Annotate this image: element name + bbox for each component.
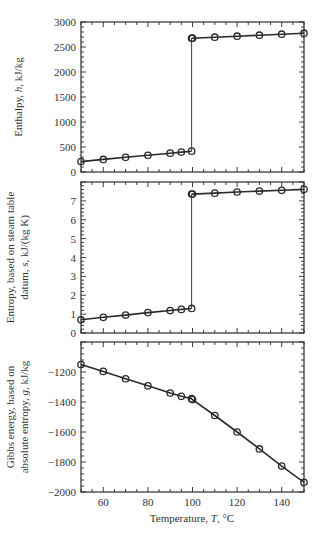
series-line-gibbs bbox=[81, 365, 304, 483]
y-tick-label: −1400 bbox=[48, 396, 77, 408]
enthalpy-panel: 050010001500200025003000Enthalpy, h, kJ/… bbox=[12, 16, 307, 178]
y-tick-label: 5 bbox=[71, 233, 77, 245]
y-tick-label: 3000 bbox=[54, 16, 77, 28]
figure-container: 050010001500200025003000Enthalpy, h, kJ/… bbox=[0, 0, 326, 540]
y-tick-label: −1600 bbox=[48, 426, 77, 438]
y-axis-label: absolute entropy, g, kJ/kg bbox=[18, 360, 30, 473]
y-tick-label: 2000 bbox=[54, 66, 77, 78]
x-tick-label: 60 bbox=[98, 496, 110, 508]
y-axis-label: datum, s, kJ/(kg K) bbox=[18, 215, 31, 300]
y-tick-label: 7 bbox=[71, 195, 77, 207]
x-tick-label: 120 bbox=[229, 496, 246, 508]
y-tick-label: 3 bbox=[71, 270, 77, 282]
y-tick-label: 0 bbox=[71, 327, 77, 339]
stacked-line-charts: 050010001500200025003000Enthalpy, h, kJ/… bbox=[0, 0, 326, 540]
x-tick-label: 100 bbox=[184, 496, 201, 508]
y-tick-label: 1500 bbox=[54, 91, 77, 103]
series-line-liquid bbox=[81, 151, 192, 161]
x-axis-label: Temperature, T, °C bbox=[150, 512, 234, 524]
y-tick-label: −2000 bbox=[48, 486, 77, 498]
series-line-vapor bbox=[192, 33, 304, 38]
y-tick-label: −1200 bbox=[48, 366, 77, 378]
gibbs-energy-panel: 6080100120140−2000−1800−1600−1400−1200Gi… bbox=[4, 342, 307, 508]
y-tick-label: 1 bbox=[71, 308, 77, 320]
y-axis-label: Enthalpy, h, kJ/kg bbox=[12, 57, 24, 137]
y-axis-label: Gibbs energy, based on bbox=[4, 365, 16, 468]
y-tick-label: 500 bbox=[60, 141, 77, 153]
plot-frame bbox=[81, 182, 304, 333]
plot-frame bbox=[81, 342, 304, 492]
y-tick-label: −1800 bbox=[48, 456, 77, 468]
series-line-liquid bbox=[81, 309, 192, 320]
y-axis-label: Entropy, based on steam table bbox=[4, 192, 16, 324]
y-tick-label: 6 bbox=[71, 214, 77, 226]
entropy-panel: 01234567Entropy, based on steam tabledat… bbox=[4, 182, 307, 339]
y-tick-label: 2 bbox=[71, 289, 77, 301]
series-line-vapor bbox=[192, 189, 304, 194]
y-tick-label: 4 bbox=[71, 252, 77, 264]
y-tick-label: 2500 bbox=[54, 41, 77, 53]
y-tick-label: 1000 bbox=[54, 116, 77, 128]
y-tick-label: 0 bbox=[71, 166, 77, 178]
x-tick-label: 80 bbox=[142, 496, 154, 508]
plot-frame bbox=[81, 22, 304, 172]
x-tick-label: 140 bbox=[273, 496, 290, 508]
